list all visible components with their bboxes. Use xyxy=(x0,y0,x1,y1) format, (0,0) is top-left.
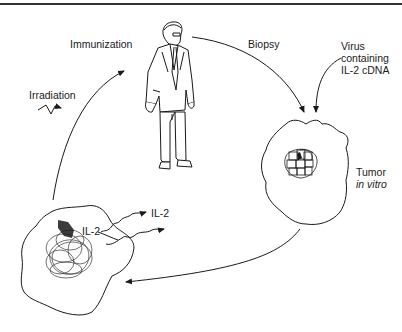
il2-outer-label: IL-2 xyxy=(151,207,169,219)
virus-arrow xyxy=(316,58,341,112)
irradiation-icon xyxy=(38,105,61,114)
virus-label: Virus containing IL-2 cDNA xyxy=(341,40,389,76)
virus-label-line1: Virus xyxy=(341,40,389,52)
virus-label-line3: IL-2 cDNA xyxy=(341,64,389,76)
tumor-in-vitro-cell xyxy=(262,120,349,224)
il2-inner-label: IL-2 xyxy=(82,225,100,237)
return-arrow xyxy=(126,229,300,282)
diagram-canvas: Immunization Irradiation Biopsy Virus co… xyxy=(0,0,402,332)
immunization-label: Immunization xyxy=(70,38,132,50)
tumor-label: Tumor in vitro xyxy=(356,166,387,190)
patient-figure xyxy=(145,22,194,169)
tumor-label-line1: Tumor xyxy=(356,166,387,178)
virus-label-line2: containing xyxy=(341,52,389,64)
il2-secreting-cell xyxy=(21,206,164,315)
irradiation-label: Irradiation xyxy=(29,89,76,101)
tumor-label-line2: in vitro xyxy=(356,178,387,190)
biopsy-label: Biopsy xyxy=(248,38,280,50)
